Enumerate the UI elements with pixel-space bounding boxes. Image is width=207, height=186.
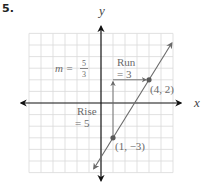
rise-label: Rise — [77, 105, 97, 117]
slope-numerator: 5 — [82, 59, 86, 68]
y-axis-label: y — [97, 3, 105, 18]
point-label: (1, −3) — [115, 140, 145, 153]
run-label: Run — [117, 56, 136, 68]
rise-value-label: = 5 — [75, 117, 90, 129]
point-label: (4, 2) — [150, 83, 174, 96]
data-point — [146, 77, 151, 82]
run-value-label: = 3 — [117, 68, 132, 80]
slope-label-prefix: m = — [55, 62, 73, 74]
coordinate-plane: y x m = 5 3 Run = 3 Rise = 5 (4, 2) (1, … — [0, 0, 207, 186]
slope-denominator: 3 — [82, 70, 86, 79]
x-axis-label: x — [193, 95, 200, 110]
